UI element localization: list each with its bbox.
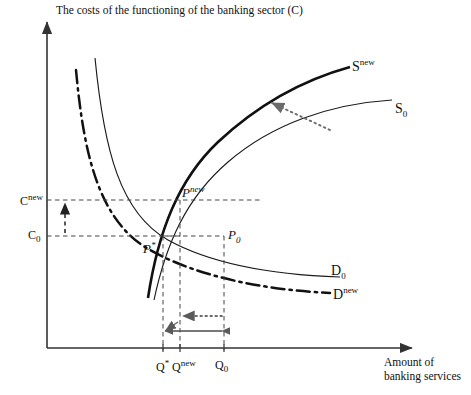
x-tick-label-q-0: Q0 [215, 358, 228, 375]
point-label-p-star-base: P [143, 241, 151, 256]
guide-lines [47, 200, 262, 350]
x-tick-label-q-new-script: new [181, 358, 196, 368]
y-tick-label-cost-0: C0 [28, 228, 41, 245]
curve-label-demand-new-script: new [343, 285, 358, 295]
curve-label-supply-new-base: S [352, 59, 360, 74]
point-label-p-new-base: P [182, 185, 190, 200]
curve-label-supply-new-script: new [360, 57, 375, 67]
curve-label-supply-0: S0 [395, 100, 407, 120]
y-tick-label-cost-0-script: 0 [36, 234, 41, 244]
diagram-canvas [0, 0, 471, 395]
curve-label-supply-new: Snew [352, 57, 375, 75]
x-tick-label-q-new-base: Q [172, 360, 181, 374]
curve-label-supply-0-script: 0 [403, 109, 408, 119]
y-tick-label-cost-new-base: C [20, 194, 28, 208]
curve-label-demand-0-base: D [331, 263, 341, 278]
y-tick-label-cost-new-script: new [28, 192, 43, 202]
x-tick-label-q-star-base: Q [156, 360, 165, 374]
arrow-quantity-final [166, 322, 178, 330]
arrow-supply-shift [272, 103, 330, 130]
point-label-p-new-script: new [190, 184, 205, 194]
y-tick-label-cost-0-base: C [28, 228, 36, 242]
point-label-p-0-base: P [228, 227, 236, 242]
x-tick-label-q-0-base: Q [215, 358, 224, 372]
economics-supply-demand-diagram: The costs of the functioning of the bank… [0, 0, 471, 395]
x-tick-label-q-star: Q* [156, 358, 169, 375]
curve-demand-0 [95, 58, 340, 277]
point-label-p-star: P* [143, 240, 155, 257]
point-label-p-0-script: 0 [236, 235, 241, 245]
y-tick-label-cost-new: Cnew [20, 192, 43, 209]
curve-label-demand-0: D0 [331, 262, 346, 282]
x-axis-title: Amount of banking services [384, 355, 471, 384]
curve-label-demand-new: Dnew [333, 285, 358, 303]
curve-label-demand-new-base: D [333, 287, 343, 302]
x-tick-label-q-star-script: * [165, 358, 170, 368]
point-label-p-new: Pnew [182, 184, 204, 201]
curve-label-supply-0-base: S [395, 101, 403, 116]
x-tick-label-q-new: Qnew [172, 358, 196, 375]
x-tick-label-q-0-script: 0 [224, 364, 229, 374]
point-label-p-0: P0 [228, 227, 240, 246]
curve-demand-new [76, 70, 330, 293]
curve-label-demand-0-script: 0 [341, 271, 346, 281]
chart-title: The costs of the functioning of the bank… [56, 3, 306, 17]
point-label-p-star-script: * [151, 240, 156, 250]
